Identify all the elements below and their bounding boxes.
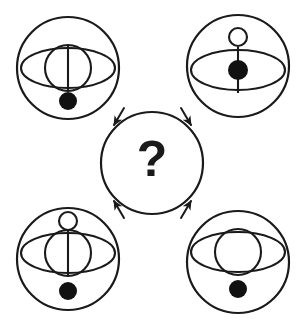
puzzle-figure: ? <box>0 0 305 324</box>
symbol-top-right-filled-dot <box>228 60 248 80</box>
symbol-bottom-left-filled-dot <box>59 282 77 300</box>
symbol-bottom-right <box>187 211 289 313</box>
symbol-bottom-left <box>17 208 119 310</box>
answer-circle: ? <box>101 112 203 214</box>
symbol-bottom-right-ellipse <box>191 232 285 272</box>
symbol-top-right-open-circle-icon <box>229 28 247 46</box>
question-mark-label: ? <box>137 131 168 187</box>
symbol-top-left-filled-dot <box>59 92 77 110</box>
symbol-bottom-right-inner-circle <box>215 229 261 275</box>
symbol-top-left <box>17 17 119 119</box>
symbol-top-right <box>187 15 289 117</box>
puzzle-canvas: ? <box>0 0 305 324</box>
symbol-bottom-left-open-circle-icon <box>59 212 77 230</box>
symbol-bottom-right-filled-dot <box>229 280 247 298</box>
